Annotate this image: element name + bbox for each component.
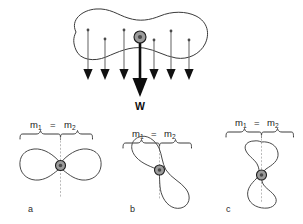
panel-c-m2-sub: 2: [275, 122, 279, 129]
panel-c-m1: m: [235, 117, 243, 128]
force-arrow-1: [83, 29, 92, 80]
panel-c: m 1 = m 2 c: [226, 117, 294, 214]
top-diagram: W: [74, 9, 208, 112]
panel-c-brace-right: [262, 129, 294, 138]
panel-b-m2: m: [164, 128, 172, 139]
panel-a: m 1 = m 2 a: [20, 119, 101, 214]
panel-a-m1: m: [30, 119, 38, 130]
panel-a-brace-right: [61, 131, 93, 140]
panel-b: m 1 = m 2 b: [123, 128, 192, 214]
center-of-gravity-dot: [134, 31, 146, 43]
panel-a-m2-sub: 2: [72, 124, 76, 131]
panel-c-m2: m: [267, 117, 275, 128]
panel-a-equals: =: [50, 119, 56, 130]
panel-a-brace-left: [20, 131, 61, 140]
panel-c-m1-sub: 1: [243, 122, 247, 129]
panel-b-label: b: [130, 204, 135, 214]
panel-b-cg-dot: [155, 165, 165, 175]
panel-a-m1-sub: 1: [38, 124, 42, 131]
panel-a-label: a: [28, 204, 33, 214]
panel-a-mass-label: m 1 = m 2: [30, 119, 76, 131]
panel-a-m2: m: [64, 119, 72, 130]
panel-c-mass-label: m 1 = m 2: [235, 117, 279, 129]
force-arrow-3: [119, 29, 128, 80]
panel-c-equals: =: [254, 117, 260, 128]
panel-b-equals: =: [151, 128, 157, 139]
panel-b-brace-right: [160, 140, 192, 149]
panel-c-brace-left: [226, 129, 262, 138]
weight-label: W: [135, 100, 145, 112]
force-arrow-6: [184, 39, 193, 80]
force-arrow-4: [149, 39, 158, 80]
panel-a-cg-dot: [56, 161, 66, 171]
panel-b-mass-label: m 1 = m 2: [132, 128, 176, 140]
panel-c-label: c: [226, 204, 231, 214]
force-arrow-5: [166, 30, 175, 80]
physics-figure: W m 1 = m 2: [0, 0, 303, 224]
panel-c-cg-dot: [257, 170, 267, 180]
weight-vector: [133, 38, 148, 97]
